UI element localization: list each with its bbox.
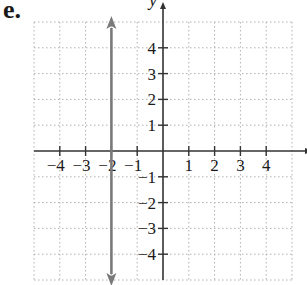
y-tick-label: 4 bbox=[148, 39, 157, 58]
y-tick-label: 1 bbox=[148, 116, 157, 135]
x-tick-label: 3 bbox=[236, 156, 245, 175]
y-tick-label: −2 bbox=[138, 194, 156, 213]
coordinate-plane: xy−4−3−2−11234−4−3−2−11234 bbox=[0, 0, 307, 285]
y-tick-label: −4 bbox=[138, 245, 157, 264]
x-axis-arrow-icon bbox=[305, 148, 307, 154]
y-tick-label: −1 bbox=[138, 168, 156, 187]
y-axis-label: y bbox=[147, 0, 157, 10]
x-tick-label: −2 bbox=[98, 156, 116, 175]
y-tick-label: 2 bbox=[148, 90, 157, 109]
x-tick-label: 2 bbox=[210, 156, 219, 175]
y-tick-label: −3 bbox=[138, 219, 156, 238]
x-tick-label: −3 bbox=[73, 156, 91, 175]
x-tick-label: 4 bbox=[262, 156, 271, 175]
x-tick-label: −4 bbox=[47, 156, 66, 175]
x-tick-label: 1 bbox=[185, 156, 194, 175]
y-axis-arrow-icon bbox=[160, 2, 166, 9]
y-tick-label: 3 bbox=[148, 65, 157, 84]
